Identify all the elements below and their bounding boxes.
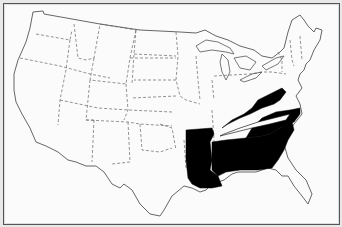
state-arkansas (186, 128, 214, 160)
us-map (0, 0, 342, 227)
highlighted-states (186, 88, 300, 188)
